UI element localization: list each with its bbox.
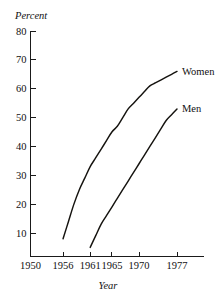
y-tick-label: 80 [16,26,27,37]
y-axis-ticks [31,31,36,233]
series-line-women [63,71,177,238]
y-tick-label: 20 [16,199,27,210]
series-label-men: Men [182,103,202,114]
y-tick-label: 60 [16,83,27,94]
x-tick-label: 1965 [101,260,122,271]
y-axis-tick-labels: 1020304050607080 [16,26,27,239]
line-chart: Percent 1020304050607080 195019561961196… [0,0,224,299]
series-labels: WomenMen [182,66,215,115]
x-tick-label: 1977 [167,260,188,271]
figure-container: Percent 1020304050607080 195019561961196… [0,0,224,299]
y-tick-label: 30 [16,170,27,181]
x-axis-ticks [31,252,178,257]
y-tick-label: 40 [16,141,27,152]
series-label-women: Women [182,66,215,77]
x-tick-label: 1970 [129,260,150,271]
x-tick-label: 1950 [20,260,41,271]
y-axis-title: Percent [14,10,48,21]
series-lines [63,71,177,247]
x-tick-label: 1956 [53,260,74,271]
x-axis-tick-labels: 195019561961196519701977 [20,260,188,271]
y-tick-label: 50 [16,112,27,123]
x-axis-title: Year [99,280,119,291]
series-line-men [90,109,177,248]
x-tick-label: 1961 [80,260,101,271]
y-tick-label: 70 [16,54,27,65]
y-tick-label: 10 [16,228,27,239]
